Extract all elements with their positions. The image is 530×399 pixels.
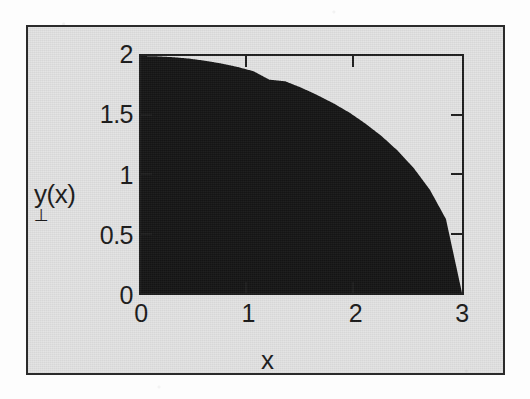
- x-axis-tick-labels: 0 1 2 3: [139, 301, 464, 341]
- x-tick-label-1: 1: [241, 301, 254, 326]
- y-tick-label-1p5: 1.5: [100, 102, 133, 127]
- scan-artifact-mark: ⊥: [34, 207, 56, 223]
- y-tick-label-2: 2: [120, 42, 133, 67]
- tick-left-y1: [141, 173, 152, 175]
- x-tick-label-0: 0: [134, 301, 147, 326]
- figure-frame: 2 1.5 1 0.5 0 0 1 2 3 y(x) ⊥ x: [26, 25, 505, 375]
- tick-right-y0p5: [451, 233, 462, 235]
- x-tick-label-3: 3: [455, 301, 468, 326]
- filled-area-path: [141, 56, 462, 293]
- tick-top-x1: [245, 56, 247, 67]
- plot-area: [141, 56, 462, 293]
- tick-left-y0p5: [141, 233, 152, 235]
- x-tick-label-2: 2: [349, 301, 362, 326]
- x-axis-title: x: [28, 345, 507, 376]
- y-tick-label-0: 0: [120, 283, 133, 308]
- tick-right-y1p5: [451, 114, 462, 116]
- tick-right-y1: [451, 173, 462, 175]
- area-series-svg: [141, 56, 462, 293]
- tick-top-x2: [352, 56, 354, 67]
- y-axis-tick-labels: 2 1.5 1 0.5 0: [28, 54, 133, 295]
- tick-bottom-x2: [352, 282, 354, 293]
- plot-box: [139, 54, 464, 295]
- y-tick-label-1: 1: [120, 162, 133, 187]
- scanned-page: 2 1.5 1 0.5 0 0 1 2 3 y(x) ⊥ x: [0, 0, 530, 399]
- tick-bottom-x1: [245, 282, 247, 293]
- y-tick-label-0p5: 0.5: [100, 222, 133, 247]
- tick-left-y1p5: [141, 114, 152, 116]
